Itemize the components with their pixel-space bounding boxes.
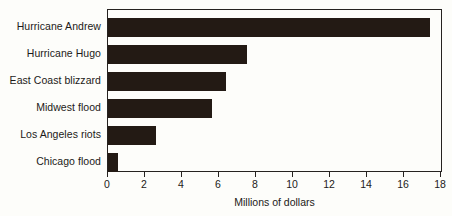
tick-mark: [218, 172, 219, 177]
bars-layer: [108, 10, 441, 171]
tick-mark: [440, 172, 441, 177]
category-label: East Coast blizzard: [0, 75, 101, 86]
tick-label: 0: [104, 178, 110, 190]
tick-label: 12: [323, 178, 335, 190]
tick-mark: [329, 172, 330, 177]
tick-mark: [403, 172, 404, 177]
bar: [108, 126, 156, 145]
tick-mark: [107, 172, 108, 177]
x-axis-ticks: 024681012141618: [107, 172, 442, 178]
category-axis-labels: Hurricane AndrewHurricane HugoEast Coast…: [0, 9, 101, 172]
bar: [108, 18, 430, 37]
tick-label: 16: [397, 178, 409, 190]
category-label: Hurricane Andrew: [0, 21, 101, 32]
tick-label: 4: [178, 178, 184, 190]
bar: [108, 72, 226, 91]
x-axis-title: Millions of dollars: [107, 196, 442, 208]
bar: [108, 45, 247, 64]
tick-label: 2: [141, 178, 147, 190]
tick-label: 6: [215, 178, 221, 190]
bar-chart: Hurricane AndrewHurricane HugoEast Coast…: [0, 0, 452, 216]
tick-mark: [292, 172, 293, 177]
tick-label: 14: [360, 178, 372, 190]
tick-mark: [255, 172, 256, 177]
category-label: Hurricane Hugo: [0, 48, 101, 59]
bar: [108, 99, 212, 118]
tick-label: 8: [252, 178, 258, 190]
category-label: Chicago flood: [0, 156, 101, 167]
tick-label: 10: [286, 178, 298, 190]
tick-mark: [366, 172, 367, 177]
tick-mark: [181, 172, 182, 177]
category-label: Los Angeles riots: [0, 129, 101, 140]
bar: [108, 153, 118, 172]
category-label: Midwest flood: [0, 102, 101, 113]
tick-label: 18: [434, 178, 446, 190]
tick-mark: [144, 172, 145, 177]
